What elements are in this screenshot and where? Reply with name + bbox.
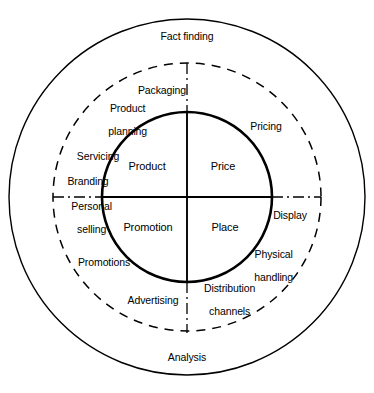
label-physical-handling-line2: handling [254, 271, 293, 283]
label-personal-selling-line1: Personal [71, 200, 112, 212]
label-personal-selling-line2: selling [77, 223, 106, 235]
label-personal-selling: Personal selling [60, 189, 112, 247]
label-product-planning: Product planning [97, 91, 147, 149]
label-branding: Branding [67, 176, 108, 188]
label-price: Price [211, 161, 236, 173]
label-product: Product [128, 161, 165, 173]
label-servicing: Servicing [77, 151, 119, 163]
label-product-planning-line2: planning [108, 125, 147, 137]
label-physical-handling: Physical handling [243, 237, 293, 295]
label-place: Place [211, 222, 238, 234]
label-product-planning-line1: Product [110, 102, 146, 114]
label-promotions: Promotions [78, 257, 130, 269]
label-fact-finding: Fact finding [160, 31, 213, 43]
diagram-canvas: Fact finding Analysis Packaging Product … [0, 0, 374, 393]
label-pricing: Pricing [250, 121, 281, 133]
diagram-graphics [0, 0, 374, 393]
label-analysis: Analysis [168, 352, 206, 364]
label-physical-handling-line1: Physical [254, 248, 292, 260]
label-promotion: Promotion [123, 222, 172, 234]
label-advertising: Advertising [128, 295, 179, 307]
label-distribution-channels-line2: channels [209, 305, 250, 317]
label-display: Display [273, 210, 307, 222]
